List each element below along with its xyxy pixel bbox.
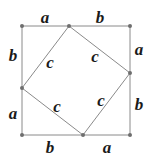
inner-square <box>22 26 130 135</box>
vertex-outer-bottom-right <box>128 133 132 137</box>
vertex-inner-bottom <box>81 133 85 137</box>
label-bottom-b: b <box>46 138 55 157</box>
vertex-inner-left <box>20 86 24 90</box>
vertex-outer-bottom-left <box>20 133 24 137</box>
pythagorean-square-diagram: a b a b b a b a c c c c <box>0 0 153 162</box>
label-inner-bottom-left-c: c <box>53 97 61 116</box>
label-bottom-a: a <box>103 138 112 157</box>
label-inner-top-right-c: c <box>91 47 99 66</box>
label-inner-bottom-right-c: c <box>97 91 105 110</box>
label-top-b: b <box>96 8 105 27</box>
label-right-b: b <box>135 95 144 114</box>
outer-square <box>22 26 130 135</box>
label-left-a: a <box>9 104 18 123</box>
vertex-inner-top <box>67 24 71 28</box>
vertex-outer-top-right <box>128 24 132 28</box>
label-top-a: a <box>41 8 50 27</box>
label-left-b: b <box>9 46 18 65</box>
vertex-inner-right <box>128 71 132 75</box>
label-inner-top-left-c: c <box>46 53 54 72</box>
vertex-outer-top-left <box>20 24 24 28</box>
label-right-a: a <box>135 40 144 59</box>
